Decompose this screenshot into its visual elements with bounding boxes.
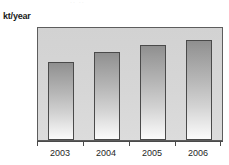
x-axis-label-2006: 2006 (175, 148, 221, 158)
x-axis-tick-3 (175, 141, 176, 146)
x-axis-tick-2 (129, 141, 130, 146)
y-axis-unit-label: kt/year (3, 11, 31, 21)
bar-2006 (186, 40, 212, 140)
bar-2005 (140, 45, 166, 140)
x-axis-line (37, 141, 223, 142)
bars-layer (38, 28, 222, 140)
x-axis-label-2004: 2004 (83, 148, 129, 158)
x-axis-label-2005: 2005 (129, 148, 175, 158)
bar-chart-figure: ·· ·· kt/year 2 1 2003200420052006 (0, 0, 229, 165)
x-axis-tick-0 (37, 141, 38, 146)
bar-2003 (48, 62, 74, 140)
cropped-title-remnant: ·· ·· (70, 0, 140, 5)
bar-2004 (94, 52, 120, 140)
x-axis: 2003200420052006 (37, 141, 223, 165)
plot-area (37, 27, 223, 141)
x-axis-tick-4 (220, 141, 221, 146)
x-axis-tick-1 (83, 141, 84, 146)
x-axis-label-2003: 2003 (37, 148, 83, 158)
